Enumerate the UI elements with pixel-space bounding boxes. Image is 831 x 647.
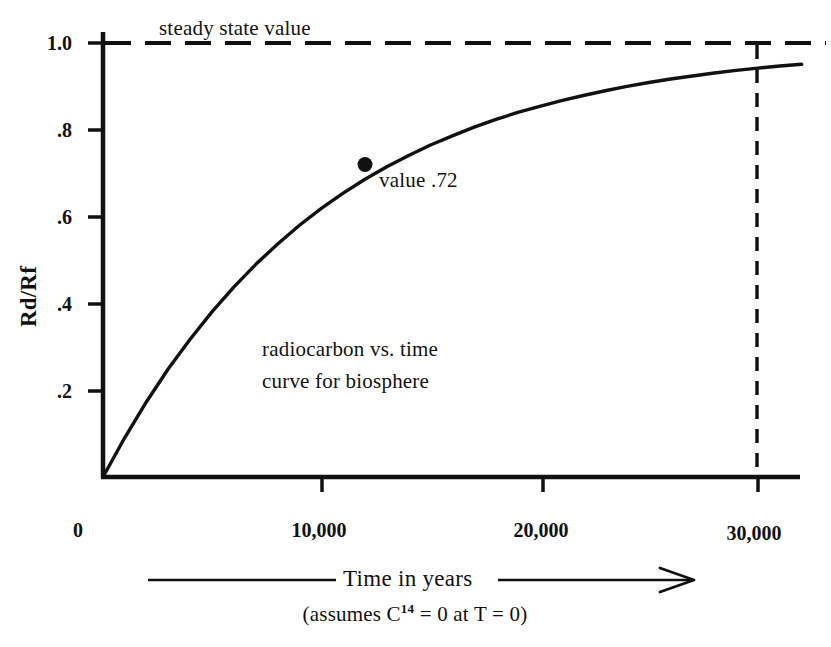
data-point-marker: [358, 157, 373, 172]
x-axis-subtitle-post: = 0 at T = 0): [414, 602, 527, 626]
y-tick-label-0-2: .2: [16, 381, 72, 401]
caption-line-2: curve for biosphere: [262, 371, 429, 392]
x-tick-label-0: 0: [18, 520, 138, 540]
y-tick-label-1-0: 1.0: [16, 33, 72, 53]
steady-state-annotation: steady state value: [159, 18, 311, 39]
y-axis-title: Rd/Rf: [17, 252, 40, 342]
y-tick-label-0-8: .8: [16, 120, 72, 140]
figure-radiocarbon-vs-time: 1.0 .8 .6 .4 .2 Rd/Rf 0 10,000 20,000 30…: [0, 0, 831, 647]
x-tick-label-30000: 30,000: [694, 523, 814, 543]
x-tick-label-10000: 10,000: [259, 520, 379, 540]
x-axis-subtitle: (assumes C14 = 0 at T = 0): [155, 604, 675, 625]
axis-lines: [101, 32, 800, 477]
caption-line-1: radiocarbon vs. time: [262, 339, 438, 360]
x-tick-label-20000: 20,000: [481, 520, 601, 540]
x-axis-subtitle-pre: (assumes C: [303, 602, 401, 626]
chart-canvas: [0, 0, 831, 647]
x-axis-title: Time in years: [343, 567, 473, 590]
radiocarbon-curve: [103, 64, 802, 477]
y-tick-label-0-6: .6: [16, 207, 72, 227]
data-point-annotation: value .72: [379, 170, 458, 191]
x-axis-subtitle-superscript: 14: [401, 601, 414, 616]
